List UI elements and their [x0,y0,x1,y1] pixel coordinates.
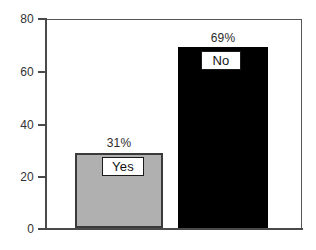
bar-value-label-no: 69% [178,32,268,44]
y-axis-line [45,18,47,229]
y-tick-group-40: 40 [0,119,34,131]
y-tick-mark-80 [38,18,45,20]
y-tick-group-60: 60 [0,66,34,78]
y-tick-label-40: 40 [0,119,34,131]
y-tick-label-60: 60 [0,66,34,78]
y-tick-label-0: 0 [0,223,34,235]
bar-category-label-no: No [201,51,241,70]
y-tick-mark-60 [38,71,45,73]
bar-category-label-yes: Yes [102,157,144,176]
x-axis-line [45,228,303,230]
y-tick-mark-40 [38,124,45,126]
y-tick-group-0: 0 [0,223,34,235]
y-tick-label-20: 20 [0,171,34,183]
y-tick-group-80: 80 [0,13,34,25]
y-tick-label-80: 80 [0,13,34,25]
y-tick-mark-20 [38,176,45,178]
y-tick-mark-0 [38,228,45,230]
bar-no [178,47,268,228]
bar-value-label-yes: 31% [75,137,163,149]
bar-chart: 80 60 40 20 0 31% Yes 69% No [0,0,316,250]
y-tick-group-20: 20 [0,171,34,183]
